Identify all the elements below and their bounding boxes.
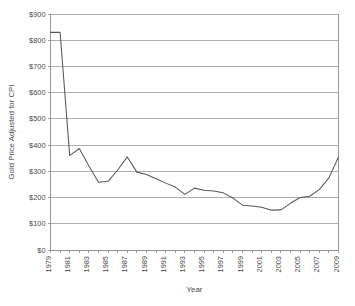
chart-container: $900$800$700$600$500$400$300$200$100$0 1… [0,0,355,306]
x-axis-tick-label: 2001 [255,256,264,272]
x-axis-tick-label: 1995 [197,256,206,272]
x-axis-tick-label: 1993 [178,256,187,272]
y-axis-tick-label: $500 [29,114,45,123]
y-axis-tick-label: $900 [29,10,45,19]
x-axis-tick-label: 2005 [293,256,302,272]
y-axis-tick-label: $300 [29,167,45,176]
x-axis-tick-label: 1985 [101,256,110,272]
y-axis-tick-label: $200 [29,193,45,202]
x-axis-title: Year [187,285,203,294]
x-axis-tick-label: 2009 [332,256,341,272]
x-axis-tick-label: 1999 [236,256,245,272]
y-axis-tick-label: $700 [29,62,45,71]
x-axis-tick-label: 1981 [63,256,72,272]
x-axis-tick-label: 1983 [82,256,91,272]
y-axis-tick-label: $0 [37,246,45,255]
x-axis-tick-label: 2003 [274,256,283,272]
x-axis-tick-label: 1987 [120,256,129,272]
y-axis-title: Gold Price Adjusted for CPI [7,85,16,180]
x-axis-tick-label: 1989 [140,256,149,272]
y-axis-tick-label: $400 [29,141,45,150]
x-axis-tick-label: 1997 [216,256,225,272]
y-axis-tick-label: $600 [29,88,45,97]
y-axis-tick-label: $100 [29,219,45,228]
x-axis-tick-label: 1979 [44,256,53,272]
gold-price-line-chart: $900$800$700$600$500$400$300$200$100$0 1… [0,0,355,306]
x-axis-tick-label: 2007 [312,256,321,272]
x-axis-tick-label: 1991 [159,256,168,272]
y-axis-tick-label: $800 [29,36,45,45]
